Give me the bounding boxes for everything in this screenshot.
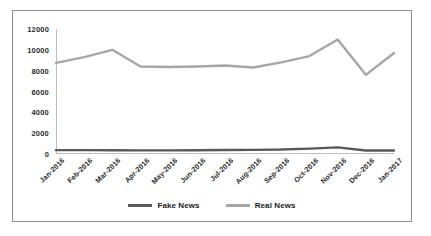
y-tick-label: 12000 bbox=[27, 25, 49, 34]
series-line-real-news bbox=[56, 39, 394, 74]
chart-figure: 020004000600080001000012000 Jan-2016Feb-… bbox=[12, 10, 412, 222]
legend-item-fake-news[interactable]: Fake News bbox=[128, 201, 199, 210]
legend-label: Real News bbox=[255, 201, 296, 210]
plot-area bbox=[56, 29, 394, 154]
y-tick-label: 10000 bbox=[27, 45, 49, 54]
legend-swatch-icon bbox=[128, 204, 152, 207]
x-tick-label: Jan-2016 bbox=[38, 156, 67, 185]
y-tick-label: 2000 bbox=[32, 129, 50, 138]
x-tick-label: Mar-2016 bbox=[94, 156, 123, 185]
x-tick-label: Oct-2016 bbox=[291, 156, 319, 184]
legend-label: Fake News bbox=[157, 201, 199, 210]
x-tick-label: Jul-2016 bbox=[208, 156, 235, 183]
series-container bbox=[56, 29, 394, 154]
x-tick-label: Dec-2016 bbox=[347, 156, 376, 185]
x-axis: Jan-2016Feb-2016Mar-2016Apr-2016May-2016… bbox=[56, 156, 394, 204]
legend-swatch-icon bbox=[226, 204, 250, 207]
x-tick-label: Jun-2016 bbox=[178, 156, 207, 185]
x-tick-label: Jan-2017 bbox=[376, 156, 405, 185]
x-tick-label: Sep-2016 bbox=[262, 156, 291, 185]
y-tick-label: 0 bbox=[45, 150, 49, 159]
x-tick-label: May-2016 bbox=[149, 156, 179, 186]
x-tick-label: Apr-2016 bbox=[122, 156, 151, 185]
y-axis: 020004000600080001000012000 bbox=[13, 29, 53, 154]
y-tick-label: 6000 bbox=[32, 87, 50, 96]
series-line-fake-news bbox=[56, 147, 394, 150]
x-tick-label: Feb-2016 bbox=[66, 156, 95, 185]
x-tick-label: Nov-2016 bbox=[318, 156, 348, 186]
y-tick-label: 4000 bbox=[32, 108, 50, 117]
x-tick-label: Aug-2016 bbox=[234, 156, 264, 186]
y-tick-label: 8000 bbox=[32, 66, 50, 75]
chart-legend: Fake NewsReal News bbox=[13, 201, 411, 210]
legend-item-real-news[interactable]: Real News bbox=[226, 201, 296, 210]
